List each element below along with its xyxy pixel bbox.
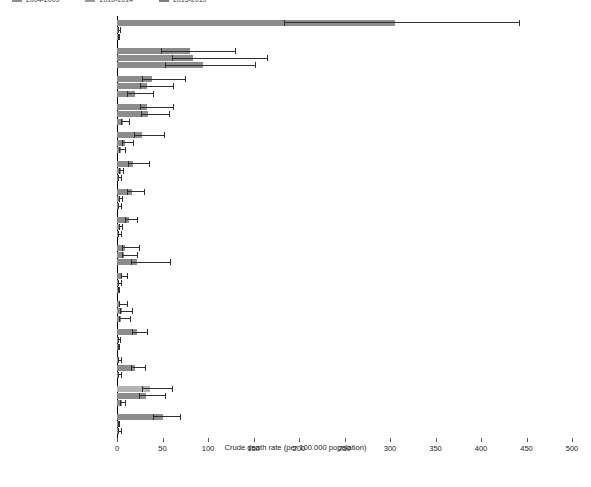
error-bar-cap-high <box>120 27 121 33</box>
error-bar-cap-high <box>132 308 133 314</box>
x-axis-tick <box>481 438 482 442</box>
error-bar-cap-high <box>121 357 122 363</box>
error-bar <box>127 191 144 192</box>
error-bar-cap-low <box>134 132 135 138</box>
error-bar-cap-high <box>165 393 166 399</box>
error-bar-cap-high <box>144 189 145 195</box>
chart-group: Sri Lanka <box>117 386 572 406</box>
bar-with-error <box>117 245 572 251</box>
error-bar-cap-high <box>149 161 150 167</box>
error-bar-cap-high <box>137 252 138 258</box>
x-axis-tick <box>163 438 164 442</box>
error-bar-cap-high <box>153 91 154 97</box>
bar-with-error <box>117 76 572 82</box>
bar-with-error <box>117 20 572 26</box>
chart-group: Central African Republic <box>117 132 572 152</box>
bar-with-error <box>117 393 572 399</box>
bar-with-error <box>117 119 572 125</box>
bar-with-error <box>117 104 572 110</box>
error-bar <box>119 318 130 319</box>
chart-group: South Sudan <box>117 161 572 181</box>
bar-with-error <box>117 308 572 314</box>
error-bar-cap-high <box>519 20 520 26</box>
error-bar <box>122 247 138 248</box>
chart-group: Nepal <box>117 357 572 377</box>
bar-with-error <box>117 168 572 174</box>
error-bar-cap-high <box>121 203 122 209</box>
bar-with-error <box>117 428 572 434</box>
error-bar-cap-high <box>121 428 122 434</box>
bar-with-error <box>117 316 572 322</box>
legend-label: 2015-2019 <box>173 0 206 3</box>
x-axis-tick <box>527 438 528 442</box>
bar-with-error <box>117 252 572 258</box>
error-bar-cap-high <box>180 414 181 420</box>
bar-with-error <box>117 27 572 33</box>
legend-swatch-icon <box>159 0 169 2</box>
error-bar <box>131 262 170 263</box>
bar-with-error <box>117 400 572 406</box>
bar-with-error <box>117 287 572 293</box>
error-bar <box>127 93 153 94</box>
error-bar <box>140 86 174 87</box>
error-bar-cap-low <box>118 428 119 434</box>
error-bar <box>165 65 255 66</box>
bar-with-error <box>117 34 572 40</box>
bar-with-error <box>117 55 572 61</box>
error-bar-cap-high <box>255 62 256 68</box>
error-bar-cap-low <box>118 175 119 181</box>
chart-group: Burundi <box>117 329 572 349</box>
error-bar <box>153 416 179 417</box>
error-bar-cap-low <box>139 393 140 399</box>
error-bar-cap-high <box>235 48 236 54</box>
bar-with-error <box>117 224 572 230</box>
crude-death-rate-chart: 2004-20092010-20142015-2019 Syrian Arab … <box>0 0 591 487</box>
error-bar-cap-high <box>129 119 130 125</box>
bar-with-error <box>117 111 572 117</box>
bar-with-error <box>117 91 572 97</box>
error-bar-cap-low <box>118 372 119 378</box>
error-bar-cap-low <box>140 83 141 89</box>
chart-group: Chad <box>117 301 572 321</box>
error-bar-cap-high <box>130 316 131 322</box>
error-bar-cap-high <box>119 34 120 40</box>
bar-with-error <box>117 203 572 209</box>
error-bar-cap-high <box>119 344 120 350</box>
error-bar-cap-high <box>125 147 126 153</box>
error-bar <box>284 22 520 23</box>
error-bar-cap-low <box>141 111 142 117</box>
plot-area: Syrian Arab RepublicIraqAfghanistanSomal… <box>117 16 572 438</box>
chart-group: Syrian Arab Republic <box>117 20 572 40</box>
bar-with-error <box>117 344 572 350</box>
error-bar-cap-low <box>120 308 121 314</box>
error-bar-cap-high <box>121 231 122 237</box>
error-bar-cap-high <box>121 280 122 286</box>
bar-with-error <box>117 161 572 167</box>
error-bar-cap-low <box>121 119 122 125</box>
error-bar-cap-high <box>122 224 123 230</box>
bar-with-error <box>117 48 572 54</box>
error-bar-cap-high <box>185 76 186 82</box>
error-bar-cap-low <box>118 231 119 237</box>
bar-with-error <box>117 231 572 237</box>
error-bar-cap-low <box>122 252 123 258</box>
x-axis-tick <box>345 438 346 442</box>
bar-with-error <box>117 421 572 427</box>
error-bar-cap-high <box>173 83 174 89</box>
error-bar <box>132 332 147 333</box>
chart-group: Ukraine <box>117 273 572 293</box>
error-bar <box>142 79 185 80</box>
error-bar-cap-low <box>142 386 143 392</box>
bar-with-error <box>117 365 572 371</box>
error-bar-cap-low <box>118 357 119 363</box>
bar-with-error <box>117 386 572 392</box>
error-bar-cap-low <box>127 189 128 195</box>
bar-with-error <box>117 62 572 68</box>
error-bar-cap-low <box>161 48 162 54</box>
error-bar-cap-high <box>137 217 138 223</box>
bar-with-error <box>117 337 572 343</box>
chart-legend: 2004-20092010-20142015-2019 <box>12 0 206 4</box>
error-bar-cap-low <box>140 104 141 110</box>
x-axis-tick <box>208 438 209 442</box>
x-axis-tick <box>390 438 391 442</box>
